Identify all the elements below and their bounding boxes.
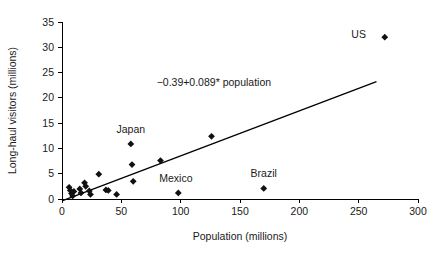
data-point-marker [208,133,215,140]
y-tick-label: 15 [42,117,54,129]
y-axis-title: Long-haul visitors (millions) [6,47,18,174]
x-axis-title: Population (millions) [193,230,288,242]
x-tick-label: 200 [291,205,309,217]
data-point-marker [381,34,388,41]
data-point-marker [130,178,137,185]
y-tick-label: 10 [42,142,54,154]
y-tick-label: 30 [42,41,54,53]
y-tick-label: 0 [48,193,54,205]
regression-line [62,82,376,201]
x-tick-label: 0 [59,205,65,217]
chart-canvas: 05101520253035050100150200250300Populati… [0,0,444,253]
x-tick-label: 150 [231,205,249,217]
data-point-marker [175,190,182,197]
scatter-chart: 05101520253035050100150200250300Populati… [0,0,444,253]
data-point-marker [127,140,134,147]
data-point-marker [95,171,102,178]
data-point-label: US [351,28,366,40]
y-tick-label: 5 [48,167,54,179]
data-point-label: Mexico [159,172,192,184]
data-point-label: Japan [117,123,146,135]
data-point-marker [113,191,120,198]
x-tick-label: 300 [409,205,427,217]
data-point-marker [260,185,267,192]
data-point-label: Brazil [251,167,277,179]
y-tick-label: 25 [42,66,54,78]
y-tick-label: 20 [42,91,54,103]
x-tick-label: 50 [115,205,127,217]
x-tick-label: 250 [350,205,368,217]
regression-equation-label: −0.39+0.089* population [157,76,272,88]
data-point-marker [129,161,136,168]
y-tick-label: 35 [42,16,54,28]
x-tick-label: 100 [172,205,190,217]
